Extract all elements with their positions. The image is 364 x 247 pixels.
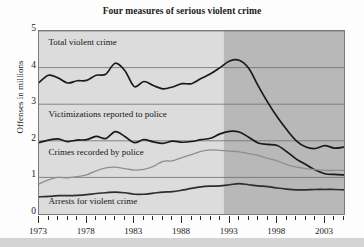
x-tick-mark <box>219 216 220 220</box>
y-tick-label: 5 <box>18 23 36 33</box>
y-tick-label: 3 <box>18 96 36 106</box>
series-label: Total violent crime <box>48 37 116 47</box>
x-tick-mark <box>267 216 268 220</box>
x-tick-mark <box>76 216 77 220</box>
x-tick-mark <box>124 216 125 220</box>
x-tick-mark <box>38 216 39 223</box>
x-tick-mark <box>48 216 49 220</box>
x-tick-mark <box>181 216 182 223</box>
y-tick-label: 0 <box>18 206 36 216</box>
chart-svg <box>39 31 344 214</box>
y-tick-label: 4 <box>18 60 36 70</box>
x-tick-mark <box>152 216 153 220</box>
series-label: Arrests for violent crime <box>48 196 137 206</box>
x-tick-mark <box>295 216 296 220</box>
x-tick-mark <box>67 216 68 220</box>
x-tick-mark <box>229 216 230 223</box>
x-tick-mark <box>57 216 58 220</box>
x-tick-label: 1983 <box>117 226 149 236</box>
x-tick-label: 2003 <box>308 226 340 236</box>
plot-area <box>38 30 345 215</box>
x-tick-mark <box>162 216 163 220</box>
x-tick-mark <box>133 216 134 223</box>
x-tick-mark <box>210 216 211 220</box>
x-tick-mark <box>314 216 315 220</box>
bottom-band <box>0 238 364 247</box>
x-tick-mark <box>95 216 96 220</box>
x-tick-label: 1998 <box>260 226 292 236</box>
series-label: Victimizations reported to police <box>48 109 166 119</box>
x-tick-mark <box>143 216 144 220</box>
x-tick-mark <box>171 216 172 220</box>
y-axis-ticks: 012345 <box>18 0 36 247</box>
shaded-region <box>224 31 344 214</box>
x-tick-mark <box>86 216 87 223</box>
x-tick-mark <box>305 216 306 220</box>
x-tick-mark <box>343 216 344 220</box>
series-label: Crimes recorded by police <box>48 147 143 157</box>
x-tick-mark <box>286 216 287 220</box>
x-tick-mark <box>276 216 277 223</box>
x-tick-label: 1993 <box>213 226 245 236</box>
figure-container: Four measures of serious violent crime O… <box>0 0 364 247</box>
x-tick-mark <box>324 216 325 223</box>
shade-rect <box>224 31 344 214</box>
x-tick-mark <box>105 216 106 220</box>
chart-title: Four measures of serious violent crime <box>0 6 364 16</box>
x-tick-mark <box>114 216 115 220</box>
x-tick-label: 1973 <box>22 226 54 236</box>
x-tick-mark <box>248 216 249 220</box>
x-tick-mark <box>191 216 192 220</box>
x-tick-mark <box>257 216 258 220</box>
x-tick-mark <box>200 216 201 220</box>
x-tick-label: 1988 <box>165 226 197 236</box>
x-tick-mark <box>238 216 239 220</box>
y-tick-label: 1 <box>18 169 36 179</box>
x-tick-label: 1978 <box>70 226 102 236</box>
y-tick-label: 2 <box>18 133 36 143</box>
x-tick-mark <box>333 216 334 220</box>
